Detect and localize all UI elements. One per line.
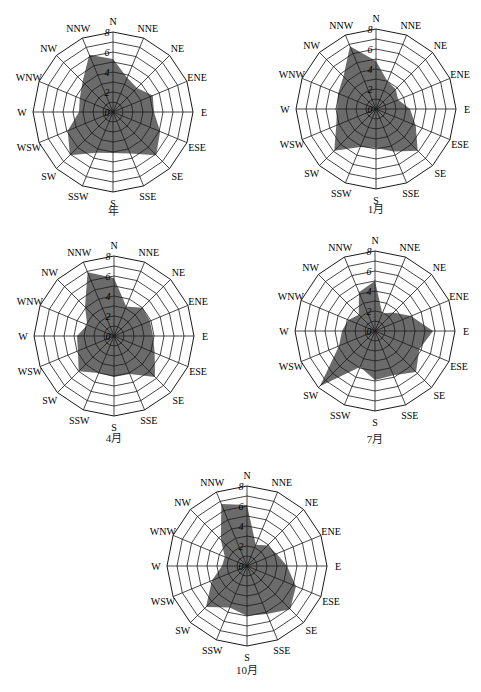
chart-caption: 年 — [83, 202, 143, 218]
chart-caption: 10月 — [217, 661, 277, 677]
direction-label: ESE — [322, 596, 340, 607]
tick-label: 6 — [106, 271, 111, 282]
direction-label: ESE — [189, 366, 207, 377]
tick-label: 8 — [367, 246, 372, 257]
direction-label: NNW — [67, 247, 91, 258]
direction-label: SSW — [202, 645, 223, 656]
direction-label: SE — [434, 390, 446, 401]
direction-label: WSW — [17, 142, 42, 153]
direction-label: NE — [171, 43, 184, 54]
direction-label: SSW — [69, 415, 90, 426]
tick-label: 2 — [105, 87, 110, 98]
direction-label: SW — [41, 171, 57, 182]
direction-label: SE — [306, 625, 318, 636]
direction-label: NNW — [200, 477, 224, 488]
tick-label: 2 — [239, 541, 244, 552]
direction-label: N — [109, 16, 116, 27]
direction-label: ENE — [188, 296, 207, 307]
direction-label: SW — [175, 625, 191, 636]
tick-label: 0 — [106, 331, 111, 342]
direction-label: WSW — [151, 596, 176, 607]
tick-label: 4 — [367, 286, 372, 297]
wind-rose-chart: NNNENEENEEESESESSESSSWSWWSWWWNWNWNNW0246… — [265, 221, 481, 441]
tick-label: 0 — [105, 107, 110, 118]
direction-label: SW — [303, 390, 319, 401]
direction-label: SW — [304, 168, 320, 179]
wind-rose-chart: NNNENEENEEESESESSESSSWSWWSWWWNWNWNNW0246… — [4, 226, 224, 446]
direction-label: NW — [303, 40, 320, 51]
direction-label: NE — [433, 262, 446, 273]
chart-caption: 7月 — [345, 430, 405, 446]
tick-label: 2 — [106, 311, 111, 322]
tick-label: 8 — [368, 24, 373, 35]
direction-label: WSW — [279, 361, 304, 372]
direction-label: NE — [305, 497, 318, 508]
tick-label: 6 — [367, 266, 372, 277]
tick-label: 8 — [106, 251, 111, 262]
chart-caption: 4月 — [84, 429, 144, 445]
direction-label: N — [110, 240, 117, 251]
direction-label: ENE — [449, 291, 468, 302]
direction-label: E — [201, 107, 207, 118]
direction-label: SSW — [331, 188, 352, 199]
tick-label: 2 — [368, 84, 373, 95]
direction-label: SSE — [140, 415, 157, 426]
direction-label: NNE — [400, 242, 421, 253]
direction-label: WSW — [280, 139, 305, 150]
direction-label: WSW — [18, 366, 43, 377]
direction-label: WNW — [17, 296, 44, 307]
chart-caption: 1月 — [346, 200, 406, 216]
direction-label: ENE — [321, 526, 340, 537]
tick-label: 4 — [105, 67, 110, 78]
direction-label: W — [279, 326, 289, 337]
direction-label: N — [371, 235, 378, 246]
tick-label: 6 — [239, 501, 244, 512]
direction-label: NW — [40, 43, 57, 54]
frequency-polygon — [68, 55, 160, 155]
direction-label: W — [151, 561, 161, 572]
direction-label: N — [372, 13, 379, 24]
tick-label: 6 — [368, 44, 373, 55]
direction-label: E — [464, 104, 470, 115]
direction-label: W — [280, 104, 290, 115]
direction-label: NW — [174, 497, 191, 508]
direction-label: WNW — [278, 291, 305, 302]
direction-label: ENE — [187, 72, 206, 83]
tick-label: 4 — [239, 521, 244, 532]
tick-label: 0 — [239, 561, 244, 572]
direction-label: N — [243, 470, 250, 481]
wind-rose-chart: NNNENEENEEESESESSESSSWSWWSWWWNWNWNNW0246… — [3, 2, 223, 222]
direction-label: W — [17, 107, 27, 118]
direction-label: SW — [42, 395, 58, 406]
tick-label: 0 — [368, 104, 373, 115]
direction-label: NNE — [272, 477, 293, 488]
direction-label: SSW — [68, 191, 89, 202]
direction-label: SSE — [273, 645, 290, 656]
direction-label: NE — [434, 40, 447, 51]
direction-label: NNW — [66, 23, 90, 34]
direction-label: ESE — [450, 361, 468, 372]
direction-label: SE — [435, 168, 447, 179]
direction-label: WNW — [279, 69, 306, 80]
direction-label: E — [202, 331, 208, 342]
direction-label: SE — [173, 395, 185, 406]
direction-label: WNW — [150, 526, 177, 537]
direction-label: SSE — [401, 410, 418, 421]
wind-rose-chart: NNNENEENEEESESESSESSSWSWWSWWWNWNWNNW0246… — [266, 0, 481, 219]
direction-label: NW — [302, 262, 319, 273]
direction-label: E — [335, 561, 341, 572]
tick-label: 0 — [367, 326, 372, 337]
direction-label: E — [463, 326, 469, 337]
direction-label: NNE — [401, 20, 422, 31]
direction-label: WNW — [16, 72, 43, 83]
wind-rose-chart: NNNENEENEEESESESSESSSWSWWSWWWNWNWNNW0246… — [137, 456, 357, 676]
tick-label: 8 — [239, 481, 244, 492]
frequency-polygon — [206, 504, 296, 616]
direction-label: NW — [41, 267, 58, 278]
direction-label: NNW — [328, 242, 352, 253]
tick-label: 2 — [367, 306, 372, 317]
tick-label: 8 — [105, 27, 110, 38]
direction-label: W — [18, 331, 28, 342]
direction-label: NNE — [139, 247, 160, 258]
direction-label: SSE — [402, 188, 419, 199]
